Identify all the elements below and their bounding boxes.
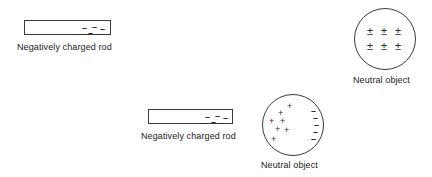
- neutral-object-top: ± ± ± ± ± ±: [354, 8, 416, 70]
- plus-sign: +: [275, 125, 280, 134]
- plus-minus-sign: ±: [367, 26, 373, 37]
- negatively-charged-rod-bottom: – – – – – –: [148, 109, 233, 124]
- plus-minus-sign: ±: [367, 41, 373, 52]
- plus-minus-sign: ±: [395, 26, 401, 37]
- rod-charge-cluster-bottom: – – – – – –: [198, 110, 232, 123]
- rod-label-top: Negatively charged rod: [17, 42, 112, 52]
- rod-charge-cluster-top: – – – – – –: [76, 21, 110, 34]
- circle-charge-cluster-bottom: + + + + + + + – – – – –: [263, 95, 323, 155]
- minus-sign: –: [97, 30, 102, 39]
- plus-sign: +: [269, 117, 274, 126]
- minus-sign: –: [88, 29, 93, 38]
- plus-sign: +: [287, 102, 292, 111]
- rod-label-bottom: Negatively charged rod: [141, 131, 236, 141]
- neutral-object-label-bottom: Neutral object: [261, 160, 318, 170]
- circle-charge-cluster-top: ± ± ± ± ± ±: [355, 9, 415, 69]
- neutral-object-bottom: + + + + + + + – – – – –: [262, 94, 324, 156]
- minus-sign: –: [311, 135, 316, 144]
- minus-sign: –: [220, 119, 225, 128]
- minus-sign: –: [78, 30, 83, 39]
- plus-sign: +: [284, 126, 289, 135]
- plus-minus-sign: ±: [381, 41, 387, 52]
- negatively-charged-rod-top: – – – – – –: [24, 20, 111, 35]
- plus-minus-sign: ±: [395, 41, 401, 52]
- plus-minus-sign: ±: [381, 26, 387, 37]
- minus-sign: –: [201, 119, 206, 128]
- neutral-object-label-top: Neutral object: [353, 75, 410, 85]
- diagram-canvas: – – – – – – Negatively charged rod ± ± ±…: [0, 0, 432, 177]
- minus-sign: –: [211, 118, 216, 127]
- plus-sign: +: [271, 135, 276, 144]
